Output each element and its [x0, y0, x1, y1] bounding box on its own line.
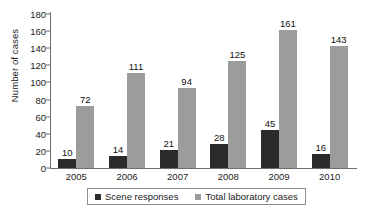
bar-scene-responses-2008: [210, 144, 228, 168]
legend-entry-total-laboratory-cases: Total laboratory cases: [195, 191, 297, 202]
chart-legend: Scene responsesTotal laboratory cases: [87, 188, 306, 205]
bar-value-label: 111: [116, 61, 156, 72]
y-axis-tick-label: 160: [30, 26, 46, 37]
y-axis-tick-label: 120: [30, 60, 46, 71]
legend-label: Total laboratory cases: [205, 191, 297, 202]
bar-value-label: 94: [167, 76, 207, 87]
bar-value-label: 143: [319, 34, 359, 45]
y-axis-tick-label: 40: [35, 128, 46, 139]
bar-scene-responses-2009: [261, 130, 279, 169]
bar-total-laboratory-cases-2005: [76, 106, 94, 168]
y-axis-tick-label: 80: [35, 94, 46, 105]
legend-label: Scene responses: [105, 191, 178, 202]
legend-swatch-icon: [195, 194, 201, 200]
bar-value-label: 125: [217, 49, 257, 60]
bar-group: 45161: [254, 14, 305, 168]
y-axis-tick-label: 60: [35, 111, 46, 122]
bar-total-laboratory-cases-2006: [127, 73, 145, 168]
bar-total-laboratory-cases-2010: [330, 46, 348, 168]
x-axis-tick-label-2010: 2010: [300, 171, 360, 182]
bar-scene-responses-2006: [109, 156, 127, 168]
bar-chart: Number of cases 020406080100120140160180…: [0, 0, 367, 215]
plot-area: 1072141112194281254516116143: [51, 14, 355, 168]
y-axis-tick-label: 20: [35, 145, 46, 156]
bar-scene-responses-2007: [160, 150, 178, 168]
bar-group: 1072: [51, 14, 102, 168]
bar-group: 14111: [102, 14, 153, 168]
legend-entry-scene-responses: Scene responses: [95, 191, 178, 202]
x-axis-line: [50, 168, 357, 169]
y-axis-tick-label: 100: [30, 77, 46, 88]
bar-scene-responses-2010: [312, 154, 330, 168]
y-axis-tick-label: 180: [30, 9, 46, 20]
bar-group: 28125: [203, 14, 254, 168]
y-axis-tick-label: 140: [30, 43, 46, 54]
bar-total-laboratory-cases-2008: [228, 61, 246, 168]
bar-scene-responses-2005: [58, 159, 76, 168]
legend-swatch-icon: [95, 194, 101, 200]
bar-total-laboratory-cases-2009: [279, 30, 297, 168]
bar-value-label: 161: [268, 18, 308, 29]
y-axis-tick-labels: 020406080100120140160180: [0, 0, 46, 215]
bar-group: 2194: [152, 14, 203, 168]
bar-value-label: 72: [65, 94, 105, 105]
bar-total-laboratory-cases-2007: [178, 88, 196, 168]
bar-group: 16143: [304, 14, 355, 168]
